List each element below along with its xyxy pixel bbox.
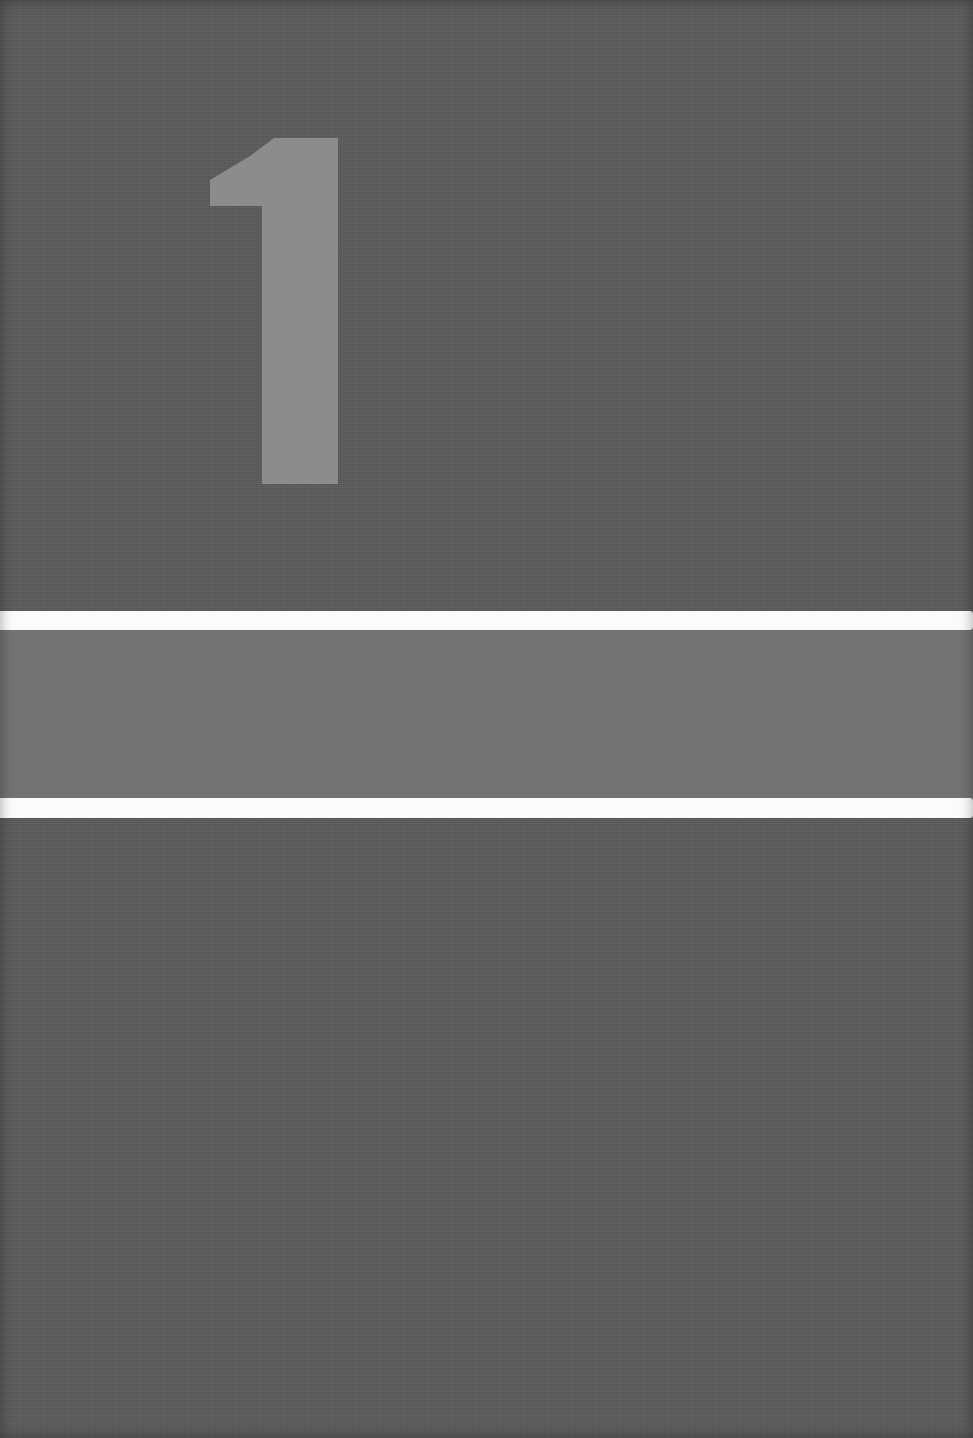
- middle-grey-band: [0, 630, 973, 798]
- top-white-stripe: [0, 611, 973, 630]
- numeral-one-shape: [210, 138, 338, 484]
- book-cover: 1: [0, 0, 973, 1438]
- volume-numeral: 1: [210, 138, 338, 484]
- numeral-text: 1: [210, 484, 211, 485]
- bottom-white-stripe: [0, 798, 973, 818]
